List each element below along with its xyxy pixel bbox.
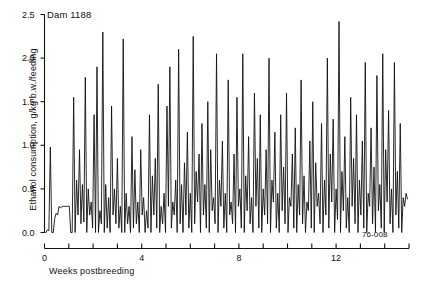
y-tick-marks xyxy=(41,15,45,233)
y-tick-label: 0.5 xyxy=(9,184,35,194)
dam-id-label: Dam 1188 xyxy=(47,10,91,20)
y-tick-label: 1.0 xyxy=(9,140,35,150)
x-tick-label: 12 xyxy=(326,253,346,263)
x-tick-label: 0 xyxy=(35,253,55,263)
y-tick-label: 2.5 xyxy=(9,10,35,20)
ethanol-consumption-line-chart xyxy=(0,0,429,287)
x-tick-label: 8 xyxy=(229,253,249,263)
y-tick-label: 2.0 xyxy=(9,53,35,63)
x-axis-title: Weeks postbreeding xyxy=(49,267,134,276)
data-series-path xyxy=(45,21,408,232)
x-tick-marks xyxy=(45,244,410,249)
figure-container: Dam 1188 76-008 Weeks postbreeding Ethan… xyxy=(0,0,429,287)
x-tick-label: 4 xyxy=(132,253,152,263)
y-tick-label: 0.0 xyxy=(9,228,35,238)
y-tick-label: 1.5 xyxy=(9,97,35,107)
figure-code-label: 76-008 xyxy=(362,231,388,239)
